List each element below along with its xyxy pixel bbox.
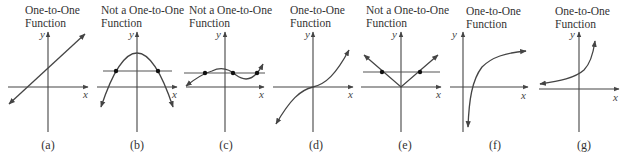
- graph-c: y x: [184, 28, 265, 132]
- y-axis-label: y: [451, 28, 457, 40]
- graph-g: y x: [539, 28, 619, 132]
- logarithmic-curve: [468, 51, 526, 127]
- graph-e: y x: [361, 28, 441, 132]
- graph-f: y x: [450, 28, 528, 132]
- y-axis-label: y: [304, 28, 310, 40]
- y-axis-label: y: [128, 28, 134, 40]
- x-axis-label: x: [171, 88, 177, 100]
- y-axis-label: y: [39, 28, 45, 40]
- graph-b: y x: [97, 28, 177, 132]
- panel-e-caption: (e): [398, 138, 411, 153]
- x-axis-label: x: [258, 88, 264, 100]
- intersection-point: [255, 71, 259, 75]
- panel-g-caption: (g): [577, 138, 591, 153]
- y-axis-label: y: [569, 28, 575, 40]
- x-axis-label: x: [82, 88, 88, 100]
- panel-d-caption: (d): [309, 138, 323, 153]
- panel-b-caption: (b): [130, 138, 144, 153]
- intersection-point: [114, 69, 118, 73]
- panel-c-caption: (c): [219, 138, 232, 153]
- intersection-point: [231, 71, 235, 75]
- x-axis-label: x: [435, 88, 441, 100]
- graphs-canvas: y x y x y x y x y x: [0, 0, 620, 160]
- x-axis-label: x: [520, 89, 526, 101]
- intersection-point: [203, 71, 207, 75]
- graph-d: y x: [273, 28, 353, 132]
- line-curve: [9, 34, 85, 104]
- y-axis-label: y: [391, 28, 397, 40]
- panel-f-caption: (f): [489, 138, 501, 153]
- x-axis-label: x: [347, 88, 353, 100]
- x-axis-label: x: [612, 91, 618, 103]
- panel-a-caption: (a): [41, 138, 54, 153]
- intersection-point: [418, 70, 422, 74]
- graph-a: y x: [8, 28, 88, 132]
- intersection-point: [380, 70, 384, 74]
- intersection-point: [156, 69, 160, 73]
- y-axis-label: y: [215, 28, 221, 40]
- exponential-curve: [540, 41, 595, 84]
